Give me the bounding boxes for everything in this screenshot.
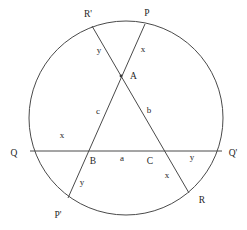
intersection-dot-A [120,75,123,78]
point-label-Q: Q [11,148,18,158]
segment-label-a: a [120,153,124,163]
geometry-diagram: R' P A Q B C Q' P' R y x c b x a y y x [0,0,247,230]
segment-label-c: c [96,106,100,116]
point-label-P: P [144,8,149,18]
arc-label-y-bottom-left: y [80,177,85,187]
segment-label-b: b [147,105,152,115]
circle-outline [29,21,223,215]
arc-label-y-top-left: y [97,45,102,55]
arc-label-x-left: x [60,130,65,140]
point-label-C: C [147,156,153,166]
arc-label-x-top-right: x [141,44,146,54]
arc-label-x-bottom-right: x [165,170,170,180]
point-label-R: R [199,195,206,205]
point-label-R-prime: R' [84,9,92,19]
geometry-figure-svg: R' P A Q B C Q' P' R y x c b x a y y x [0,0,247,230]
arc-label-y-right: y [190,152,195,162]
point-label-P-prime: P' [55,210,62,220]
point-label-A: A [130,71,137,81]
point-label-Q-prime: Q' [229,148,238,158]
point-label-B: B [90,156,96,166]
